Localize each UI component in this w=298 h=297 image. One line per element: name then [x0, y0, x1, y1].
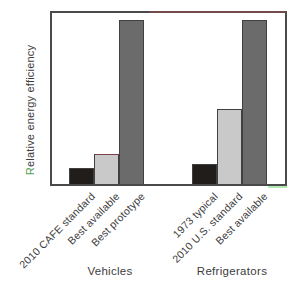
green-scan-artifact-line	[268, 186, 287, 188]
plot-area	[50, 11, 287, 186]
group-label-vehicles: Vehicles	[45, 265, 175, 277]
bar-vehicles-2010-cafe-standard	[69, 168, 94, 184]
ylabel-green-initial: R	[24, 167, 36, 175]
group-label-refrigerators: Refrigerators	[167, 265, 297, 277]
bar-refrigerators-best-available	[242, 20, 267, 184]
frame-top-red-tint-artifact	[150, 11, 286, 13]
bar-refrigerators-1973-typical	[192, 164, 217, 184]
bar-vehicles-best-available	[94, 154, 119, 184]
energy-efficiency-bar-chart: Relative energy efficiency Vehicles Refr…	[0, 0, 298, 297]
bar-vehicles-best-prototype	[119, 20, 144, 184]
y-axis-label: Relative energy efficiency	[24, 45, 36, 175]
bar-refrigerators-2010-u-s-standard	[217, 109, 242, 184]
